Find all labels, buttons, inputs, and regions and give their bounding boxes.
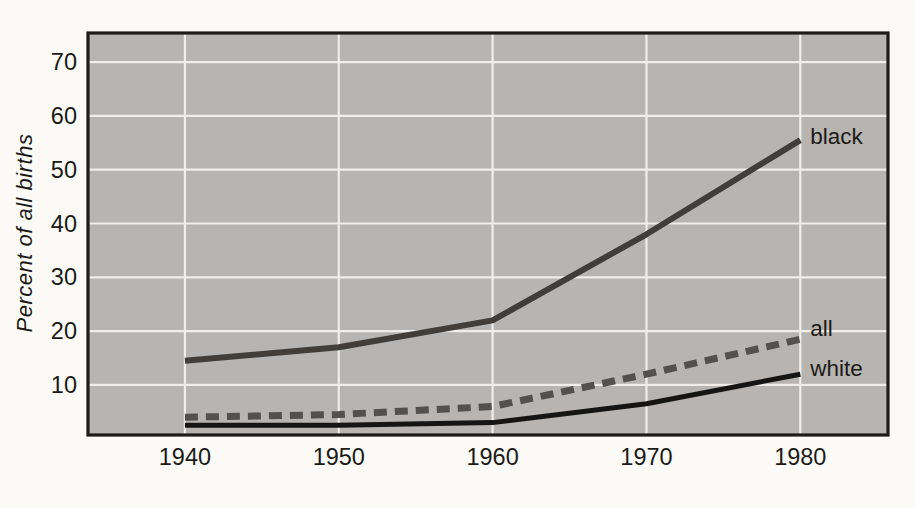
y-tick-label: 50 <box>51 157 77 183</box>
y-tick-label: 10 <box>51 372 77 398</box>
series-label-white: white <box>809 356 863 381</box>
chart-figure: blackallwhite102030405060701940195019601… <box>0 0 915 508</box>
x-tick-label: 1970 <box>620 444 672 470</box>
y-tick-label: 70 <box>51 49 77 75</box>
plot-area <box>88 33 888 435</box>
series-label-black: black <box>810 124 863 149</box>
x-tick-label: 1980 <box>774 444 826 470</box>
y-axis-title: Percent of all births <box>12 134 37 333</box>
x-tick-label: 1940 <box>159 444 211 470</box>
line-chart: blackallwhite102030405060701940195019601… <box>0 0 915 508</box>
y-tick-label: 60 <box>51 103 77 129</box>
y-tick-label: 20 <box>51 318 77 344</box>
y-tick-label: 40 <box>51 211 77 237</box>
x-tick-label: 1950 <box>313 444 365 470</box>
x-tick-label: 1960 <box>466 444 518 470</box>
series-label-all: all <box>810 316 833 341</box>
y-tick-label: 30 <box>51 264 77 290</box>
